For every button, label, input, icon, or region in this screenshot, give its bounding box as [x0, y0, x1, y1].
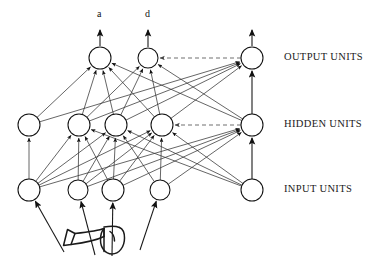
edge-i1-h3	[38, 133, 106, 184]
layer-label-output: OUTPUT UNITS	[284, 51, 363, 62]
stimulus-arrow-i2	[81, 202, 95, 255]
output-label-a: a	[97, 8, 101, 19]
edge-i2-h3	[83, 136, 109, 181]
edge-h1-o3	[40, 62, 240, 122]
input-unit-i1	[18, 179, 40, 201]
input-unit-i3	[102, 179, 124, 201]
edge-h5-o2	[158, 64, 243, 119]
edge-i3-h3	[114, 138, 116, 179]
hidden-unit-h2	[68, 114, 90, 136]
output-arrows	[100, 30, 252, 47]
hidden-unit-h1	[18, 114, 40, 136]
input-unit-i2	[68, 180, 88, 200]
edge-i2-h5	[87, 130, 239, 187]
output-unit-o2	[138, 48, 158, 68]
edge-i5-h4	[173, 133, 244, 184]
edge-i3-h2	[85, 137, 108, 181]
input-unit-i5	[241, 179, 263, 201]
layer-label-input: INPUT UNITS	[284, 183, 352, 194]
hidden-unit-h4	[151, 114, 173, 136]
edges-input-to-hidden	[29, 129, 243, 187]
output-label-d: d	[145, 8, 150, 19]
edge-i1-h2	[36, 135, 71, 181]
edge-h4-o3	[171, 66, 242, 119]
edge-h3-o3	[126, 64, 240, 120]
edges-hidden-to-output	[37, 62, 243, 122]
stimulus-arrow-i1	[35, 201, 64, 252]
output-unit-o3	[241, 47, 263, 69]
edge-h2-o1	[82, 70, 96, 114]
edge-i5-h3	[128, 131, 242, 186]
stimulus-arrow-i3	[112, 203, 113, 256]
edge-h3-o1	[103, 71, 113, 115]
network-diagram: OUTPUT UNITS HIDDEN UNITS INPUT UNITS a …	[0, 0, 376, 264]
stimulus-arrow-i4	[140, 201, 156, 250]
layer-label-hidden: HIDDEN UNITS	[284, 118, 362, 129]
stimulus-arrows	[35, 201, 156, 256]
input-unit-i4	[150, 180, 170, 200]
hidden-unit-h5	[241, 114, 263, 136]
network-svg	[0, 0, 376, 264]
edge-i4-h5	[168, 133, 241, 185]
output-unit-o1	[89, 47, 111, 69]
hidden-unit-h3	[105, 114, 127, 136]
edge-i2-h2	[78, 138, 79, 180]
edge-h2-o3	[89, 63, 240, 121]
edge-h1-o1	[37, 67, 91, 118]
